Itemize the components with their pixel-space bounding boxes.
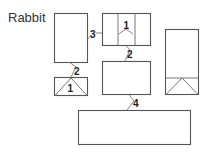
box-e [79,111,191,145]
label-4: 4 [133,98,139,109]
rabbit-diagram: Rabbit 3 1 2 1 2 4 [0,0,206,155]
box-f-triangle [166,78,198,95]
box-c: 1 [55,78,88,96]
label-2-left-group: 2 [69,62,80,77]
box-d [103,62,151,95]
label-3-group: 3 [87,29,102,40]
label-2-left: 2 [74,66,80,77]
label-4-group: 4 [127,95,139,111]
label-2-right-group: 2 [125,46,133,62]
box-a [55,14,88,63]
diagram-title: Rabbit [8,10,46,25]
label-1-box-b: 1 [124,20,130,31]
box-b: 1 [103,14,151,46]
label-3: 3 [90,29,96,40]
label-2-right: 2 [127,49,133,60]
box-f [166,30,199,95]
label-1-box-c: 1 [68,83,74,94]
